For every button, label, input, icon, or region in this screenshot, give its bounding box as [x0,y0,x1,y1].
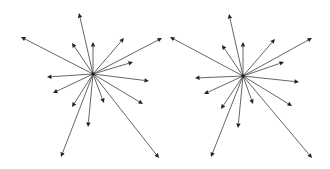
arrowhead-icon [72,43,76,48]
vector-arrow [21,37,93,74]
vector-shaft [51,74,93,77]
vector-shaft [93,41,121,74]
arrowhead-icon [221,104,225,109]
arrowhead-icon [78,13,82,18]
vector-shaft [93,74,156,154]
vector-arrow [61,74,93,157]
arrowhead-icon [144,78,149,82]
vector-shaft [80,17,93,74]
vector-shaft [93,74,102,99]
vector-arrow [93,38,124,74]
arrowhead-icon [236,123,240,128]
vector-arrow [93,74,104,103]
vector-shaft [93,74,139,102]
vector-arrow [170,37,243,76]
arrowhead-icon [72,102,76,107]
arrowhead-icon [249,99,253,104]
vector-shaft [243,40,308,76]
arrowhead-icon [91,42,95,47]
arrowhead-icon [86,122,90,127]
vector-arrow [93,74,149,83]
right-star [170,14,312,158]
diagram-canvas [0,0,330,169]
vector-arrow [47,74,93,79]
arrowhead-icon [222,45,226,50]
vector-shaft [174,39,243,76]
vector-shaft [93,74,145,80]
vector-shaft [243,76,251,100]
vector-arrow [93,74,159,158]
arrowhead-icon [47,75,52,79]
vector-arrow [243,38,312,76]
vector-arrow [243,76,312,158]
arrowhead-icon [294,79,299,83]
left-star [21,13,162,158]
vector-shaft [25,39,93,74]
arrowhead-icon [228,14,232,19]
arrowhead-icon [128,61,133,65]
vector-shaft [238,76,243,124]
vector-shaft [243,76,309,155]
origin-point [241,74,245,78]
vector-arrow [228,14,243,76]
arrowhead-icon [279,61,284,65]
vector-arrow [93,38,162,74]
origin-point [91,72,95,76]
vector-arrow [211,76,243,157]
arrowhead-icon [241,42,245,47]
vector-shaft [230,18,243,76]
vector-shaft [93,40,158,74]
vector-arrow [78,13,93,74]
vector-shaft [199,76,243,78]
vector-arrow [243,76,254,104]
vector-arrow [243,76,299,84]
vector-star-diagram [0,0,330,169]
vector-arrow [93,74,143,104]
arrowhead-icon [195,76,200,80]
vector-shaft [88,74,93,123]
